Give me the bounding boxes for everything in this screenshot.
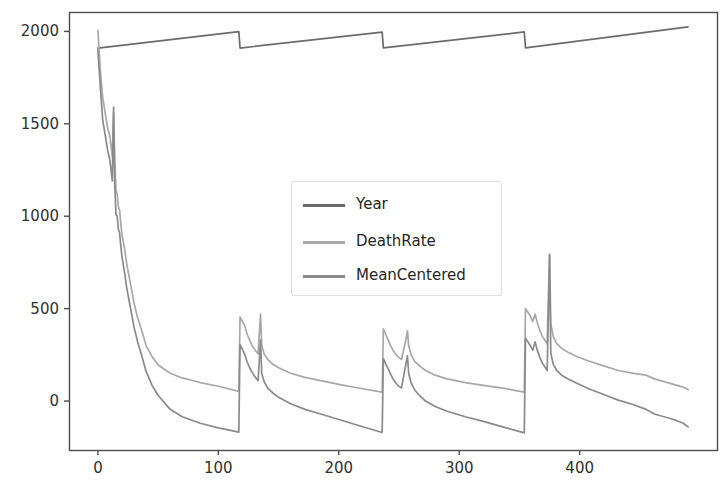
y-tick-label: 1500 [0, 115, 59, 133]
x-tick-label: 400 [556, 459, 604, 477]
x-tick-label: 200 [315, 459, 363, 477]
x-tick-label: 100 [194, 459, 242, 477]
legend-swatch-year [303, 204, 345, 207]
legend-swatch-meancentered [303, 275, 345, 278]
legend-label-year: Year [356, 195, 388, 213]
chart-figure: 0500100015002000 0100200300400 Year Deat… [0, 0, 727, 492]
chart-legend[interactable]: Year DeathRate MeanCentered [291, 181, 502, 296]
legend-label-deathrate: DeathRate [356, 232, 436, 250]
legend-swatch-deathrate [303, 241, 345, 244]
y-tick-label: 0 [0, 392, 59, 410]
legend-entry-year[interactable]: Year [292, 186, 501, 223]
x-tick-label: 0 [74, 459, 122, 477]
y-tick-label: 500 [0, 300, 59, 318]
legend-entry-deathrate[interactable]: DeathRate [292, 223, 501, 260]
y-axis-ticks [64, 31, 69, 401]
legend-entry-meancentered[interactable]: MeanCentered [292, 257, 501, 294]
legend-label-meancentered: MeanCentered [356, 266, 466, 284]
y-tick-label: 2000 [0, 22, 59, 40]
y-tick-label: 1000 [0, 207, 59, 225]
x-tick-label: 300 [435, 459, 483, 477]
